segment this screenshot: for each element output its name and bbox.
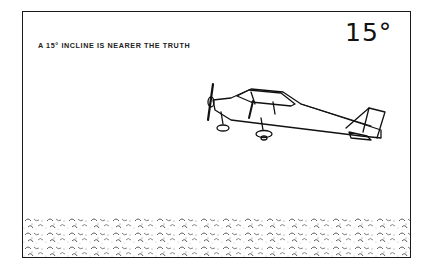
caption: A 15° INCLINE IS NEARER THE TRUTH <box>38 41 190 50</box>
airplane-icon <box>191 80 391 162</box>
illustration-frame: A 15° INCLINE IS NEARER THE TRUTH 15° <box>22 11 411 258</box>
ground-texture <box>23 216 410 257</box>
angle-label: 15° <box>345 18 392 47</box>
